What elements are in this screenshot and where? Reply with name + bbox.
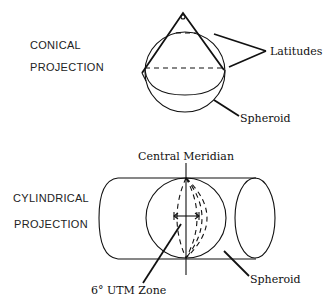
latitudes-leader-upper — [214, 34, 266, 51]
conical-projection: CONICAL PROJECTION Latitudes Spheroid — [30, 13, 323, 125]
cone-outline — [142, 13, 224, 73]
meridian-left-dashed — [177, 178, 186, 258]
cylinder-right-end — [235, 178, 275, 258]
conical-title-line1: CONICAL — [30, 39, 81, 51]
conical-title-line2: PROJECTION — [30, 61, 104, 73]
cylindrical-spheroid-label: Spheroid — [250, 273, 301, 286]
projection-diagram: CONICAL PROJECTION Latitudes Spheroid CY… — [0, 0, 330, 307]
central-meridian-label: Central Meridian — [138, 150, 234, 163]
cylindrical-title-line2: PROJECTION — [14, 218, 88, 230]
utm-zone-label: 6° UTM Zone — [91, 284, 166, 297]
cylinder-left-end — [99, 178, 118, 259]
cylindrical-title-line1: CYLINDRICAL — [13, 192, 89, 204]
cylindrical-spheroid-leader — [224, 251, 249, 276]
cone-apex-marker — [181, 15, 185, 19]
conical-spheroid-circle — [145, 32, 225, 112]
conical-spheroid-leader — [214, 100, 239, 116]
latitudes-label: Latitudes — [270, 45, 323, 58]
conical-ellipse-arc — [145, 70, 225, 95]
meridian-right2-dashed — [186, 178, 202, 258]
meridian-right1-dashed — [186, 178, 197, 258]
latitudes-leader-lower — [229, 51, 266, 67]
cylindrical-projection: CYLINDRICAL PROJECTION Central Meridian … — [13, 150, 301, 297]
conical-spheroid-label: Spheroid — [240, 112, 291, 125]
